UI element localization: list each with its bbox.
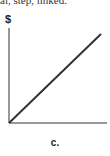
chart-caption: c. [0, 137, 110, 148]
line-chart [0, 0, 110, 156]
data-line [9, 34, 101, 123]
